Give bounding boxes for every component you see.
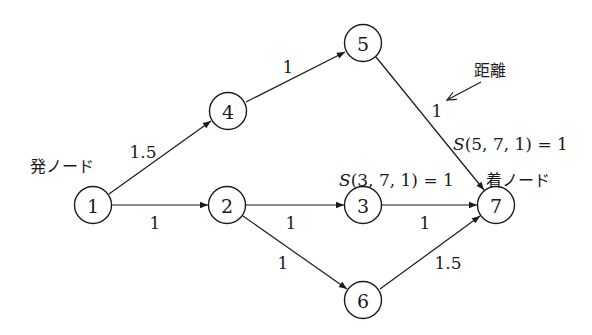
edge-4-5 [246,52,345,102]
s-3-7-annotation: S(3, 7, 1) = 1 [339,170,454,190]
weight-6-7: 1.5 [434,253,461,273]
weight-1-4: 1.5 [129,142,156,162]
weight-1-2: 1 [150,213,161,233]
node-4: 4 [210,93,247,130]
s-fn: S [453,134,465,154]
node-label: 7 [490,195,502,217]
weight-2-3: 1 [286,213,297,233]
node-label: 2 [221,195,233,217]
node-label: 4 [222,101,234,123]
network-diagram: 1 2 3 4 5 6 7 1.5 1 1 1 1 1 1 1.5 発ノード 着… [0,0,592,335]
distance-pointer-arrow [447,82,481,100]
node-label: 6 [357,290,369,312]
distance-label: 距離 [474,61,506,80]
node-label: 1 [87,195,99,217]
node-label: 5 [357,33,369,55]
sink-node-label: 着ノード [486,171,550,190]
weight-4-5: 1 [283,57,294,77]
node-1: 1 [75,187,112,224]
s-args: (5, 7, 1) = 1 [465,134,568,154]
node-5: 5 [345,25,382,62]
node-2: 2 [209,187,246,224]
weight-5-7: 1 [432,101,443,121]
weight-2-6: 1 [278,253,289,273]
edge-1-4 [109,121,211,194]
node-7: 7 [478,187,515,224]
s-5-7-annotation: S(5, 7, 1) = 1 [453,134,568,154]
node-3: 3 [345,187,382,224]
node-6: 6 [345,282,382,319]
source-node-label: 発ノード [30,157,94,176]
node-label: 3 [357,195,369,217]
s-fn: S [339,170,351,190]
weight-3-7: 1 [420,213,431,233]
s-args: (3, 7, 1) = 1 [351,170,454,190]
